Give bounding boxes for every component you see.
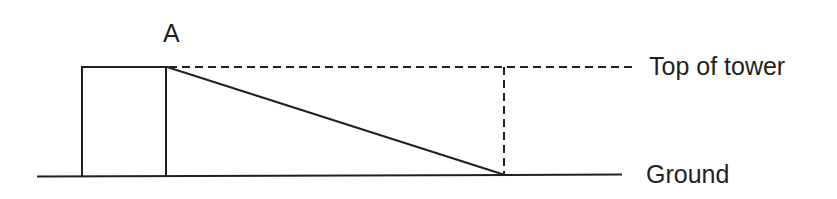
ground-line (37, 175, 622, 177)
tower-rectangle (81, 66, 167, 176)
vertex-label-a: A (163, 21, 180, 46)
ground-label: Ground (646, 162, 729, 187)
diagram-canvas: A Top of tower Ground (0, 0, 837, 199)
line-of-sight (167, 67, 505, 175)
top-of-tower-label: Top of tower (649, 54, 785, 79)
